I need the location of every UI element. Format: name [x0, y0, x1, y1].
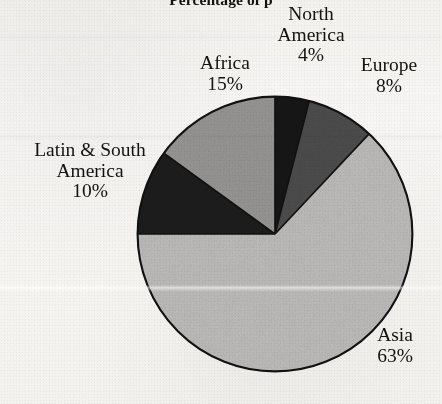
pie-label-latin-south-america-line1: Latin & South — [34, 139, 146, 160]
pie-label-north-america-line2: America — [277, 24, 344, 45]
pie-chart-page: Percentage of p — [0, 0, 442, 404]
pie-label-latin-south-america-line2: America — [56, 160, 123, 181]
pie-label-europe: Europe 8% — [338, 55, 440, 96]
pie-label-africa-line1: Africa — [200, 52, 250, 73]
pie-label-africa-value: 15% — [170, 74, 280, 95]
pie-label-latin-south-america-value: 10% — [14, 181, 166, 202]
pie-label-asia-value: 63% — [352, 346, 438, 367]
pie-label-asia-line1: Asia — [377, 324, 413, 345]
pie-label-north-america-line1: North — [288, 3, 334, 24]
pie-label-asia: Asia 63% — [352, 325, 438, 366]
pie-label-latin-south-america: Latin & South America 10% — [14, 140, 166, 202]
pie-label-europe-line1: Europe — [361, 54, 417, 75]
page-title: Percentage of p — [0, 0, 442, 9]
pie-label-europe-value: 8% — [338, 76, 440, 97]
pie-label-africa: Africa 15% — [170, 53, 280, 94]
